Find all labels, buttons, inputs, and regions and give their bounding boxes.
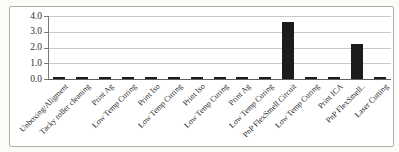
y-axis — [48, 16, 49, 80]
y-tick-label: 3.0 — [16, 26, 42, 37]
bar-chart: 0.01.02.03.04.0Unboxing/AligmentTacky ro… — [0, 0, 399, 152]
gridline — [48, 32, 391, 33]
y-tick-label: 0.0 — [16, 74, 42, 85]
gridline — [48, 16, 391, 17]
y-tick-label: 1.0 — [16, 58, 42, 69]
y-tick-label: 2.0 — [16, 42, 42, 53]
gridline — [48, 48, 391, 49]
bar-14 — [351, 44, 363, 79]
gridline — [48, 63, 391, 64]
y-tick-label: 4.0 — [16, 11, 42, 22]
bar-11 — [282, 22, 294, 79]
x-category-label: Low Temp Curing — [273, 82, 321, 130]
plot-area: 0.01.02.03.04.0Unboxing/AligmentTacky ro… — [0, 0, 399, 152]
x-axis — [48, 79, 391, 80]
